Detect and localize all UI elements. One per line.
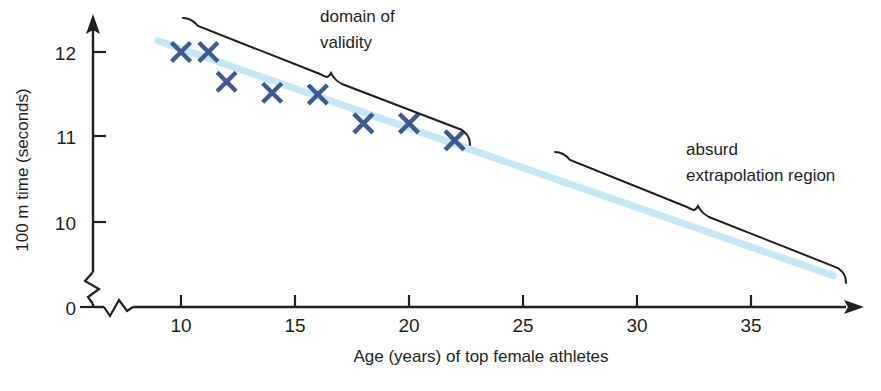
annotation-domain-line2: validity bbox=[320, 33, 372, 52]
annotation-text-layer: domain of validity absurd extrapolation … bbox=[0, 0, 881, 391]
annotation-domain-line1: domain of bbox=[320, 7, 395, 26]
chart-canvas: 12 11 10 0 10 15 20 25 30 35 Age (years)… bbox=[0, 0, 881, 391]
annotation-absurd-line2: extrapolation region bbox=[686, 166, 835, 185]
annotation-absurd-line1: absurd bbox=[686, 140, 738, 159]
